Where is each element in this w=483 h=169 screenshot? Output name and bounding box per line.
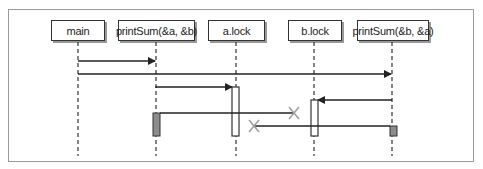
activation-p1-waiting <box>153 113 160 136</box>
activation-p2-waiting <box>390 126 397 136</box>
activation-a-lock <box>232 87 239 136</box>
sequence-graphics <box>0 0 483 169</box>
message-p1-to-a-lock <box>156 87 232 88</box>
activation-b-lock <box>311 100 318 136</box>
